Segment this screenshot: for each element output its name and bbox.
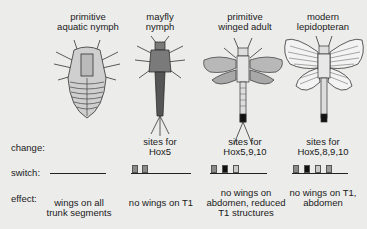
- winged-adult-illustration: [200, 38, 286, 144]
- site-hox5-a: [132, 165, 138, 173]
- title-line: nymph: [115, 22, 205, 32]
- switch-primitive-winged-adult: [210, 160, 267, 174]
- site-hox5: [293, 165, 299, 173]
- effect-line: trunk segments: [29, 208, 129, 218]
- site-hox10: [233, 165, 239, 173]
- site-hox10: [326, 165, 332, 173]
- change-line: Hox5: [115, 147, 205, 157]
- site-hox9: [222, 165, 228, 173]
- site-hox9: [315, 165, 321, 173]
- lepidopteran-illustration: [282, 34, 366, 126]
- switch-primitive-aquatic-nymph: [50, 160, 106, 174]
- switch-baseline: [50, 173, 106, 175]
- row-label-change: change:: [11, 142, 45, 153]
- change-modern-lepidopteran: sites for Hox5,8,9,10: [278, 137, 367, 157]
- effect-modern-lepidopteran: no wings on T1, abdomen: [273, 188, 367, 208]
- title-mayfly-nymph: mayfly nymph: [115, 12, 205, 32]
- site-hox5-b: [142, 165, 148, 173]
- mayfly-nymph-illustration: [133, 36, 187, 136]
- title-line: winged adult: [200, 22, 290, 32]
- effect-line: abdomen: [273, 198, 367, 208]
- site-hox8: [304, 165, 310, 173]
- site-hox5: [211, 165, 217, 173]
- effect-line: T1 structures: [196, 208, 296, 218]
- change-line: Hox5,9,10: [200, 147, 290, 157]
- switch-modern-lepidopteran: [292, 160, 348, 174]
- change-line: Hox5,8,9,10: [278, 147, 367, 157]
- title-modern-lepidopteran: modern lepidopteran: [278, 12, 367, 32]
- change-mayfly-nymph: sites for Hox5: [115, 137, 205, 157]
- change-primitive-winged-adult: sites for Hox5,9,10: [200, 137, 290, 157]
- aquatic-nymph-illustration: [52, 38, 122, 120]
- switch-mayfly-nymph: [131, 160, 191, 174]
- row-label-switch: switch:: [11, 167, 40, 178]
- title-line: lepidopteran: [278, 22, 367, 32]
- title-primitive-winged-adult: primitive winged adult: [200, 12, 290, 32]
- switch-baseline: [131, 173, 191, 175]
